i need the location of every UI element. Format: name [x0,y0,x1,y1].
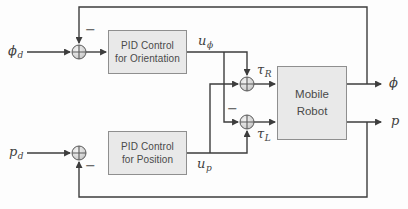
wire-u-phi-to-tauR [187,52,247,75]
signal-label-p: p [391,113,399,128]
signal-label-u-p: up [197,156,211,171]
summing-junction-tau-L [240,115,254,129]
minus-sign-tau-L-input: − [227,102,238,115]
mobile-robot-label-line1: Mobile [295,86,329,103]
signal-label-tau-R: τR [257,62,271,77]
pid-orientation-label-line2: for Orientation [115,52,180,66]
block-diagram-canvas: PID Control for Orientation PID Control … [0,0,408,209]
signal-label-phi-d: ϕd [8,43,23,58]
pid-position-label-line1: PID Control [121,140,174,154]
pid-orientation-label-line1: PID Control [121,39,174,53]
mobile-robot-block: Mobile Robot [277,66,347,140]
summing-junction-tau-R [240,77,254,91]
summing-junction-position [72,146,86,160]
signal-label-phi: ϕ [389,75,398,90]
signal-label-tau-L: τL [257,126,270,141]
signal-label-u-phi: uϕ [198,33,213,48]
minus-sign-position-feedback: − [85,159,96,172]
pid-orientation-block: PID Control for Orientation [108,30,187,74]
minus-sign-orientation-feedback: − [85,23,96,36]
pid-position-label-line2: for Position [122,153,173,167]
signal-label-p-d: pd [9,144,23,159]
wire-u-p-to-tauL [187,131,247,153]
pid-position-block: PID Control for Position [108,131,187,175]
mobile-robot-label-line2: Robot [297,103,328,120]
summing-junction-orientation [72,45,86,59]
